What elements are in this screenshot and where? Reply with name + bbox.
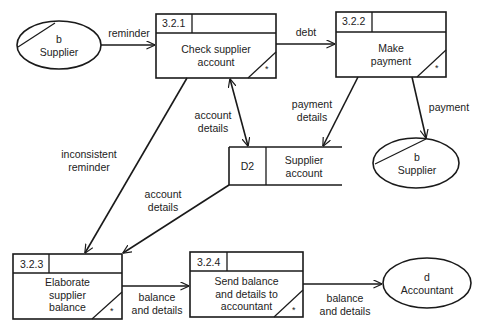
process-3-2-1-marker: * — [265, 64, 269, 74]
flow-label-account-details-bidir: account details — [186, 109, 240, 134]
flow-label-balance-details-to-3-2-4: balance and details — [128, 291, 186, 316]
flow-label-balance-details-to-accountant: balance and details — [316, 292, 374, 317]
process-3-2-4-title: Send balance and details to accountant — [190, 275, 303, 313]
process-3-2-3-title: Elaborate supplier balance — [13, 276, 122, 314]
flow-label-reminder: reminder — [104, 27, 154, 40]
flow-label-payment: payment — [424, 101, 474, 114]
supplier-left-name: Supplier — [17, 46, 101, 59]
accountant-code: d — [383, 271, 471, 284]
process-3-2-4-id: 3.2.4 — [197, 256, 220, 268]
supplier-right-code: b — [374, 151, 460, 164]
process-3-2-1-id: 3.2.1 — [162, 17, 185, 29]
flow-label-payment-details: payment details — [284, 98, 340, 123]
accountant-name: Accountant — [383, 284, 471, 297]
supplier-left-code: b — [17, 33, 101, 46]
supplier-right-label: b Supplier — [374, 151, 460, 176]
flow-label-debt: debt — [288, 26, 324, 39]
accountant-label: d Accountant — [383, 271, 471, 296]
process-3-2-2-marker: * — [435, 63, 439, 73]
supplier-left-label: b Supplier — [17, 33, 101, 58]
datastore-d2-name: Supplier account — [266, 154, 342, 179]
process-3-2-2-id: 3.2.2 — [342, 15, 365, 27]
data-flow-diagram: b Supplier b Supplier d Accountant 3.2.1… — [0, 0, 484, 333]
process-3-2-2-title: Make payment — [336, 42, 446, 67]
flow-label-account-details-to-3-2-3: account details — [136, 188, 190, 213]
process-3-2-4-marker: * — [292, 305, 296, 315]
process-3-2-1-title: Check supplier account — [156, 43, 276, 68]
process-3-2-3-marker: * — [110, 306, 114, 316]
process-3-2-3-id: 3.2.3 — [20, 258, 43, 270]
datastore-d2-id: D2 — [229, 160, 266, 173]
flow-label-inconsistent-reminder: inconsistent reminder — [54, 148, 124, 173]
supplier-right-name: Supplier — [374, 164, 460, 177]
